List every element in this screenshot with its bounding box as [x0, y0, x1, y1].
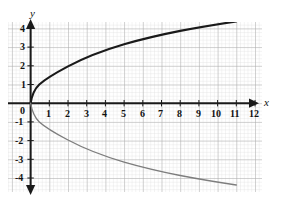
- y-tick-label-2: 2: [20, 61, 25, 71]
- y-tick-label-neg1: -1: [15, 117, 23, 127]
- y-axis-label: y: [30, 8, 35, 19]
- x-tick-label-11: 11: [230, 109, 239, 119]
- x-tick-label-2: 2: [65, 109, 70, 119]
- y-tick-label-neg2: -2: [15, 136, 23, 146]
- x-tick-label-7: 7: [158, 109, 163, 119]
- x-tick-label-4: 4: [102, 109, 107, 119]
- y-tick-label-neg4: -4: [15, 173, 23, 183]
- x-tick-label-12: 12: [249, 109, 259, 119]
- x-axis-label: x: [264, 97, 269, 108]
- grid-area: [8, 22, 262, 192]
- x-tick-label-10: 10: [211, 109, 221, 119]
- x-tick-label-5: 5: [121, 109, 126, 119]
- y-tick-label-3: 3: [20, 42, 25, 52]
- y-tick-label-neg3: -3: [15, 155, 23, 165]
- y-tick-label-1: 1: [21, 80, 26, 90]
- x-tick-label-6: 6: [140, 109, 145, 119]
- x-tick-label-3: 3: [84, 109, 89, 119]
- y-tick-label-4: 4: [20, 24, 25, 34]
- x-tick-label-1: 1: [46, 109, 51, 119]
- x-tick-label-8: 8: [177, 109, 182, 119]
- x-tick-label-9: 9: [196, 109, 201, 119]
- origin-tick-label: 0: [20, 106, 25, 116]
- graph-figure: y x 0 1 2 3 4 5 6 7 8 9 10 11 12 4 3 2 1…: [0, 0, 284, 203]
- coordinate-plane-svg: [0, 0, 284, 203]
